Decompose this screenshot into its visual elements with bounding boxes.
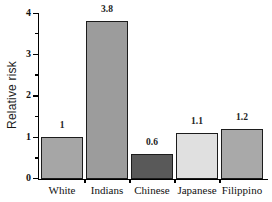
y-tick-label-0: 0 [15,172,31,184]
bar-group-white: 1 [41,120,83,179]
x-tick [219,179,221,183]
y-minor-tick [35,116,38,118]
x-tick [129,179,131,183]
y-tick-0 [33,178,38,180]
y-tick-2 [33,95,38,97]
bar-white [41,137,83,179]
y-tick-4 [33,13,38,15]
bar-chinese [131,154,173,179]
bar-value-label: 0.6 [146,137,158,147]
y-minor-tick [35,157,38,159]
x-tick [84,179,86,183]
x-category-label-filippino: Filippino [207,184,272,196]
y-minor-tick [35,74,38,76]
y-tick-label-4: 4 [15,7,31,19]
bar-japanese [176,133,218,179]
bar-chart-figure: Relative risk 0 1 2 3 4 1 3.8 [0,0,272,202]
y-tick-label-3: 3 [15,48,31,60]
plot-area: 0 1 2 3 4 1 3.8 0.6 1.1 [38,13,268,180]
bar-value-label: 1.2 [236,112,248,122]
bar-group-japanese: 1.1 [176,116,218,179]
bar-group-filippino: 1.2 [221,112,263,179]
y-tick-1 [33,137,38,139]
y-minor-tick [35,33,38,35]
bar-value-label: 1 [60,120,65,130]
bar-indians [86,21,128,179]
x-tick [174,179,176,183]
bar-value-label: 1.1 [191,116,203,126]
bar-filippino [221,129,263,179]
bar-group-chinese: 0.6 [131,137,173,179]
bar-value-label: 3.8 [101,4,113,14]
y-tick-label-2: 2 [15,89,31,101]
y-tick-3 [33,54,38,56]
y-tick-label-1: 1 [15,131,31,143]
bar-group-indians: 3.8 [86,4,128,179]
